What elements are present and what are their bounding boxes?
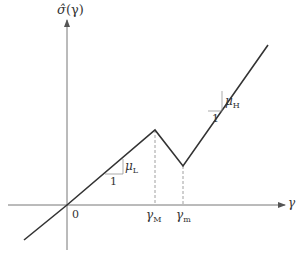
subscript-H: H xyxy=(233,101,240,110)
y-axis-argument: (γ) xyxy=(66,2,84,17)
slope-low-rise: μL xyxy=(125,160,138,175)
slope-low-run: 1 xyxy=(110,176,117,187)
subscript-m: m xyxy=(183,215,191,224)
slope-triangle-high xyxy=(208,91,222,111)
slope-triangle-low xyxy=(105,159,123,174)
tick-gamma-M: γM xyxy=(146,209,161,224)
mu-symbol: μ xyxy=(125,159,133,173)
x-axis-label: γ xyxy=(288,197,295,209)
slope-high-run: 1 xyxy=(212,113,219,124)
y-axis-label: σ̂(γ) xyxy=(57,3,84,16)
slope-high-rise: μH xyxy=(225,95,240,110)
mu-symbol: μ xyxy=(225,94,233,108)
sigma-hat-symbol: σ̂ xyxy=(57,2,66,17)
subscript-M: M xyxy=(153,215,161,224)
tick-gamma-m: γm xyxy=(176,209,191,224)
subscript-L: L xyxy=(133,166,138,175)
origin-label: 0 xyxy=(72,209,79,220)
